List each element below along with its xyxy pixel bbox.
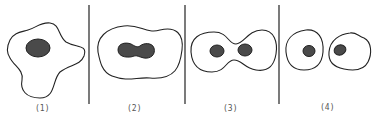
panel-2: (2) <box>98 26 183 113</box>
nucleus <box>238 44 252 56</box>
panel-3: (3) <box>191 30 277 113</box>
panel-label: (1) <box>35 104 49 113</box>
panel-label: (3) <box>223 104 237 113</box>
nucleus <box>118 43 154 58</box>
panel-label: (2) <box>127 104 141 113</box>
panel-1: (1) <box>7 23 84 113</box>
cell-membrane <box>7 23 84 98</box>
panel-4: (4) <box>286 30 371 112</box>
panel-label: (4) <box>320 103 334 112</box>
cell-membrane <box>191 30 277 72</box>
nucleus <box>210 45 224 57</box>
nucleus <box>26 39 50 57</box>
cell-division-diagram: (1) (2) (3) (4) <box>0 0 379 118</box>
nucleus <box>303 46 315 57</box>
nucleus <box>333 43 348 57</box>
